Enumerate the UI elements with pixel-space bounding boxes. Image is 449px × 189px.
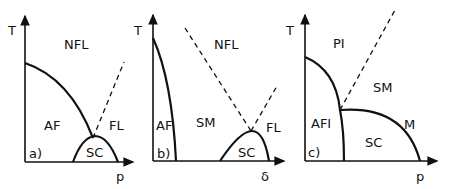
panel-tag: a) bbox=[29, 146, 42, 161]
region-sc: SC bbox=[238, 145, 255, 160]
y-axis-label: T bbox=[133, 23, 142, 38]
panel-tag: b) bbox=[157, 146, 170, 161]
region-fl: FL bbox=[109, 118, 124, 133]
panel-c: T p PI SM AFI SC M c) bbox=[285, 10, 437, 184]
panel-tag: c) bbox=[308, 145, 320, 160]
region-m: M bbox=[404, 117, 415, 132]
crossover-dashed-line bbox=[340, 10, 395, 110]
region-nfl: NFL bbox=[64, 37, 89, 52]
region-af: AF bbox=[44, 118, 60, 133]
region-sm: SM bbox=[196, 115, 215, 130]
region-af: AF bbox=[156, 118, 172, 133]
y-axis-label: T bbox=[7, 23, 16, 38]
region-pi: PI bbox=[333, 36, 345, 51]
region-sc: SC bbox=[86, 145, 103, 160]
region-afi: AFI bbox=[311, 116, 331, 131]
region-sm: SM bbox=[373, 80, 392, 95]
af-boundary-curve bbox=[153, 38, 176, 161]
phase-diagrams: T p NFL AF FL SC a) T δ NFL AF SM FL SC … bbox=[0, 0, 449, 189]
region-sc: SC bbox=[365, 135, 382, 150]
region-fl: FL bbox=[266, 120, 281, 135]
x-axis-label: δ bbox=[261, 169, 269, 184]
y-axis-label: T bbox=[285, 23, 294, 38]
x-axis-label: p bbox=[116, 169, 124, 184]
x-axis-label: p bbox=[416, 169, 424, 184]
panel-a: T p NFL AF FL SC a) bbox=[7, 16, 133, 184]
region-nfl: NFL bbox=[214, 37, 239, 52]
panel-b: T δ NFL AF SM FL SC b) bbox=[133, 15, 284, 184]
